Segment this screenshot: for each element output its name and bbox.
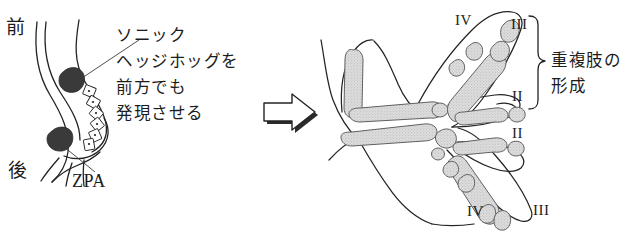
digit-label-mid-lower: II bbox=[512, 126, 523, 141]
posterior-label: 後 bbox=[8, 161, 27, 180]
cartilage-elements bbox=[341, 20, 525, 230]
digit-label-top-inner: III bbox=[511, 17, 528, 32]
curly-brace bbox=[529, 16, 545, 109]
digit-label-bottom-inner: III bbox=[533, 203, 550, 218]
figure-artwork bbox=[0, 0, 629, 235]
digit-label-mid-upper: II bbox=[512, 89, 523, 104]
zpa-blob bbox=[47, 127, 73, 151]
digit-label-bottom-outer: IV bbox=[467, 204, 484, 219]
annotation-line-3: 前方でも bbox=[116, 80, 186, 97]
caption-line-2: 形成 bbox=[551, 79, 586, 96]
annotation-line-4: 発現させる bbox=[116, 106, 204, 123]
annotation-line-1: ソニック bbox=[116, 28, 186, 45]
zpa-label: ZPA bbox=[72, 172, 106, 190]
anterior-graft-blob bbox=[59, 68, 85, 93]
block-arrow-right bbox=[264, 94, 318, 133]
digit-label-top-outer: IV bbox=[455, 13, 472, 28]
annotation-line-2: ヘッジホッグを bbox=[116, 54, 239, 71]
anterior-label: 前 bbox=[6, 18, 25, 37]
figure-limb-duplication: 前 後 ZPA ソニック ヘッジホッグを 前方でも 発現させる IV III I… bbox=[0, 0, 629, 235]
shh-bead-row bbox=[82, 84, 104, 150]
duplicated-limb-drawing bbox=[321, 12, 545, 230]
caption-line-1: 重複肢の bbox=[551, 53, 621, 70]
